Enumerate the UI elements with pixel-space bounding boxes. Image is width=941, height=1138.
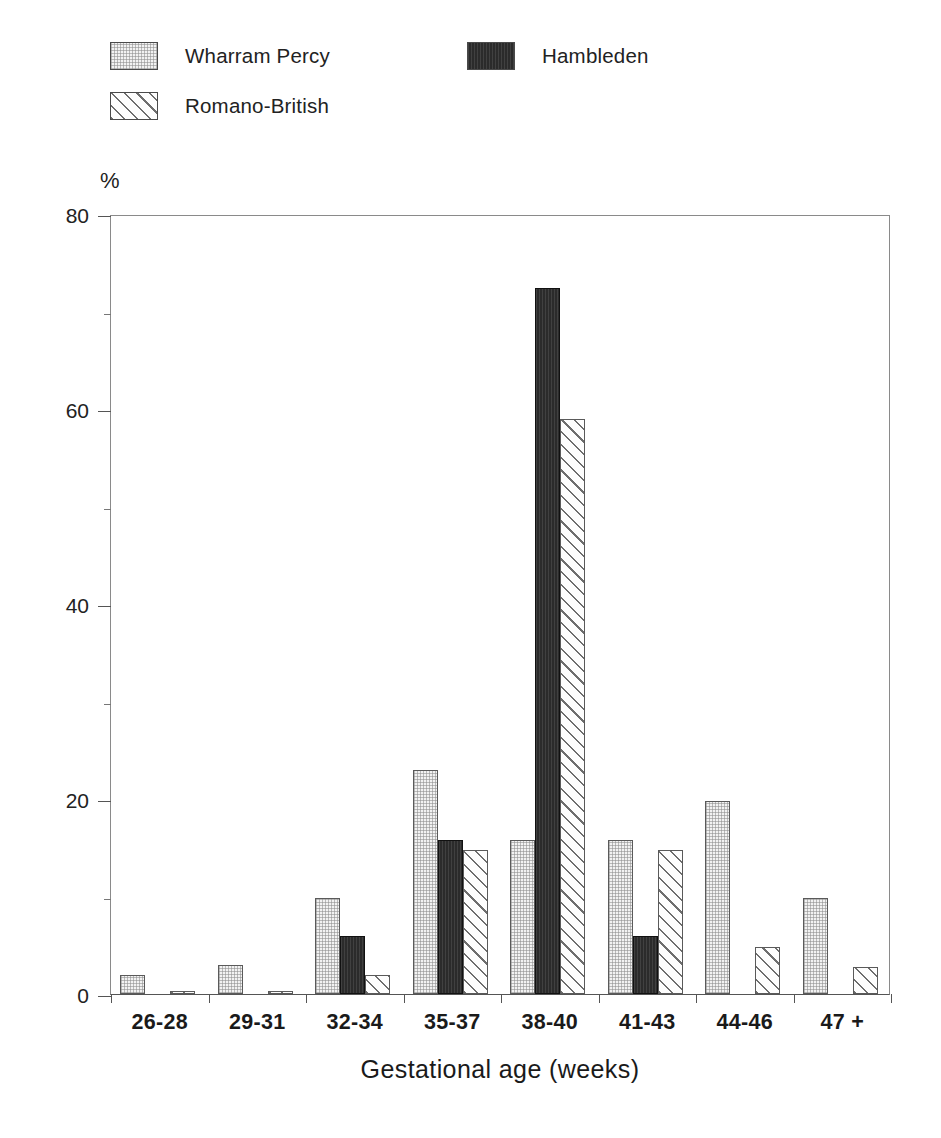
bar — [413, 770, 438, 994]
legend-item-wharram-percy: Wharram Percy — [110, 42, 330, 70]
y-axis-tick — [98, 411, 111, 412]
plot-area: 02040608026-2829-3132-3435-3738-4041-434… — [110, 215, 890, 995]
y-axis-minor-tick — [104, 704, 111, 705]
x-axis-tick-label: 41-43 — [619, 1010, 676, 1035]
legend-label-romano-british: Romano-British — [185, 94, 329, 118]
x-axis-tick-label: 38-40 — [522, 1010, 579, 1035]
legend-swatch-wharram-percy — [110, 42, 158, 70]
x-axis-tick — [696, 994, 697, 1003]
legend-label-hambleden: Hambleden — [542, 44, 649, 68]
bar — [658, 850, 683, 994]
legend-item-romano-british: Romano-British — [110, 92, 329, 120]
y-axis-tick-label: 0 — [77, 984, 89, 1008]
bar — [560, 419, 585, 994]
bar — [268, 991, 293, 994]
bar — [340, 936, 365, 995]
bar — [438, 840, 463, 994]
y-axis-minor-tick — [104, 314, 111, 315]
bar — [510, 840, 535, 994]
x-axis-tick — [501, 994, 502, 1003]
bar — [463, 850, 488, 994]
bar — [608, 840, 633, 994]
x-axis-tick-label: 47 + — [820, 1010, 864, 1035]
x-axis-tick — [794, 994, 795, 1003]
y-axis-tick — [98, 996, 111, 997]
y-axis-tick-label: 20 — [66, 789, 89, 813]
bar — [365, 975, 390, 995]
bar — [120, 975, 145, 995]
bar — [315, 898, 340, 994]
bar — [853, 967, 878, 994]
bar — [218, 965, 243, 994]
y-axis-tick — [98, 216, 111, 217]
bar — [633, 936, 658, 995]
y-axis-tick-label: 80 — [66, 204, 89, 228]
bar — [170, 991, 195, 994]
x-axis-tick — [891, 994, 892, 1003]
x-axis-tick-label: 32-34 — [327, 1010, 384, 1035]
chart-figure: Wharram Percy Hambleden Romano-British %… — [0, 0, 941, 1138]
y-axis-unit-label: % — [100, 168, 120, 194]
x-axis-tick — [111, 994, 112, 1003]
y-axis-tick-label: 40 — [66, 594, 89, 618]
x-axis-tick — [209, 994, 210, 1003]
chart-legend: Wharram Percy Hambleden Romano-British — [0, 0, 941, 150]
y-axis-tick — [98, 606, 111, 607]
legend-swatch-romano-british — [110, 92, 158, 120]
legend-label-wharram-percy: Wharram Percy — [185, 44, 330, 68]
x-axis-tick — [404, 994, 405, 1003]
bar — [535, 288, 560, 994]
bar — [803, 898, 828, 994]
y-axis-minor-tick — [104, 509, 111, 510]
legend-swatch-hambleden — [467, 42, 515, 70]
x-axis-tick-label: 29-31 — [229, 1010, 286, 1035]
y-axis-minor-tick — [104, 899, 111, 900]
y-axis-tick — [98, 801, 111, 802]
legend-item-hambleden: Hambleden — [467, 42, 649, 70]
x-axis-tick-label: 35-37 — [424, 1010, 481, 1035]
x-axis-tick-label: 26-28 — [132, 1010, 189, 1035]
y-axis-tick-label: 60 — [66, 399, 89, 423]
x-axis-tick — [599, 994, 600, 1003]
x-axis-tick — [306, 994, 307, 1003]
x-axis-title: Gestational age (weeks) — [110, 1055, 890, 1084]
x-axis-tick-label: 44-46 — [717, 1010, 774, 1035]
bar — [705, 801, 730, 994]
bar — [755, 947, 780, 994]
